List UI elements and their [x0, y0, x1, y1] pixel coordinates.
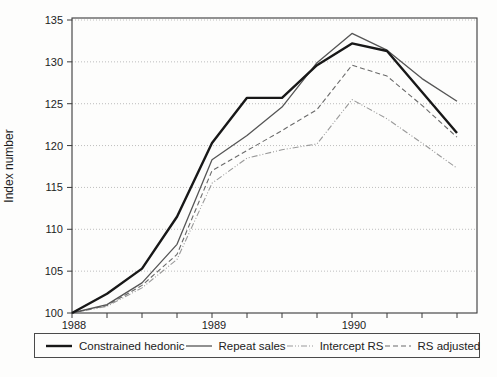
index-number-chart: Index number 100105110115120125130135198…	[0, 0, 497, 332]
legend-label: Constrained hedonic	[79, 340, 185, 352]
gridlines	[72, 20, 477, 271]
legend-item-repeat-sales: Repeat sales	[185, 340, 286, 352]
series-line-constrained-hedonic	[72, 43, 457, 313]
legend-label: Intercept RS	[320, 340, 384, 352]
y-tick-label: 120	[45, 140, 63, 152]
rs-adjusted-line-sample	[384, 342, 412, 350]
y-tick-label: 110	[45, 223, 63, 235]
y-tick-label: 115	[45, 181, 63, 193]
legend-item-intercept-rs: Intercept RS	[286, 340, 384, 352]
repeat-sales-line-sample	[185, 342, 213, 350]
x-tick-label-1990: 1990	[342, 319, 366, 331]
chart-page: Index number 100105110115120125130135198…	[0, 0, 497, 377]
y-tick-label: 125	[45, 98, 63, 110]
y-tick-label: 135	[45, 14, 63, 26]
x-tick-label-1988: 1988	[62, 319, 86, 331]
y-axis-label: Index number	[2, 129, 16, 202]
series-line-rs-adjusted	[72, 65, 457, 313]
y-tick-label: 130	[45, 56, 63, 68]
legend-item-constrained-hedonic: Constrained hedonic	[45, 340, 185, 352]
chart-legend: Constrained hedonicRepeat salesIntercept…	[34, 333, 480, 358]
legend-label: RS adjusted	[418, 340, 481, 352]
legend-label: Repeat sales	[219, 340, 286, 352]
x-tick-label-1989: 1989	[202, 319, 226, 331]
y-tick-label: 100	[45, 307, 63, 319]
series-line-intercept-rs	[72, 100, 457, 313]
intercept-rs-line-sample	[286, 342, 314, 350]
y-tick-label: 105	[45, 265, 63, 277]
legend-item-rs-adjusted: RS adjusted	[384, 340, 481, 352]
axes	[67, 18, 477, 318]
constrained-hedonic-line-sample	[45, 342, 73, 350]
